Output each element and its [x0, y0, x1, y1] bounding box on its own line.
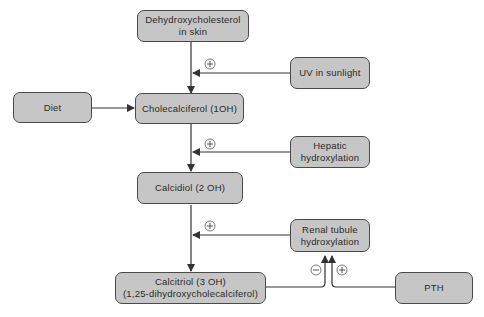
node-calcidiol: Calcidiol (2 OH)	[137, 172, 243, 204]
node-diet: Diet	[13, 92, 92, 123]
node-label: UV in sunlight	[299, 67, 360, 79]
node-pth: PTH	[395, 272, 473, 304]
node-label: Hepatic	[301, 140, 360, 152]
node-renal-tubule-hydroxylation: Renal tubule hydroxylation	[290, 219, 370, 252]
node-label: Dehydroxycholesterol	[145, 14, 240, 26]
node-label: hydroxylation	[301, 152, 360, 164]
node-cholecalciferol: Cholecalciferol (1OH)	[135, 93, 244, 124]
node-label: Cholecalciferol (1OH)	[142, 103, 237, 115]
node-label: hydroxylation	[301, 236, 360, 248]
node-dehydroxycholesterol: Dehydroxycholesterol in skin	[137, 10, 249, 42]
node-label: Renal tubule	[301, 224, 360, 236]
node-label: in skin	[145, 26, 240, 38]
node-hepatic-hydroxylation: Hepatic hydroxylation	[290, 136, 370, 168]
node-uv-in-sunlight: UV in sunlight	[290, 57, 370, 89]
node-label: Diet	[44, 102, 62, 114]
node-label: PTH	[424, 282, 444, 294]
node-calcitriol: Calcitriol (3 OH) (1,25-dihydroxycholeca…	[115, 272, 266, 304]
node-label: Calcitriol (3 OH)	[123, 276, 258, 288]
node-label: Calcidiol (2 OH)	[155, 182, 225, 194]
connector-layer	[0, 0, 484, 317]
node-label: (1,25-dihydroxycholecalciferol)	[123, 288, 258, 300]
